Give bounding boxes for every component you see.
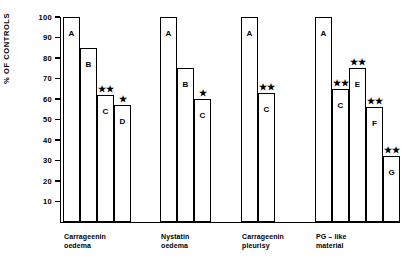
y-tick-label: 30: [20, 156, 52, 165]
group-nystatin-oedema-label: Nystatin oedema: [161, 232, 189, 251]
y-tick-label: 80: [20, 54, 52, 63]
significance-marker: ★★: [332, 79, 349, 88]
bar-letter-label: C: [258, 105, 275, 114]
bar-letter-label: D: [114, 117, 131, 126]
significance-marker: ★: [114, 95, 131, 104]
significance-marker: ★★: [366, 97, 383, 106]
bar-letter-label: B: [80, 60, 97, 69]
bar-letter-label: A: [160, 29, 177, 38]
group-carrageenin-oedema-label: Carrageenin oedema: [64, 232, 106, 251]
bar-letter-label: C: [332, 101, 349, 110]
bar-b-1: [80, 48, 97, 222]
significance-marker: ★★: [258, 83, 275, 92]
y-tick-mark: [55, 37, 60, 38]
group-pg-like-material-label: PG – like material: [316, 232, 346, 251]
y-tick-mark: [55, 201, 60, 202]
bar-b-2: [177, 68, 194, 222]
y-tick-mark: [55, 98, 60, 99]
y-tick-mark: [55, 119, 60, 120]
y-tick-mark: [55, 139, 60, 140]
bar-g-4: [383, 156, 400, 222]
bar-letter-label: B: [177, 80, 194, 89]
bar-letter-label: C: [194, 111, 211, 120]
y-axis-line: [60, 17, 61, 222]
y-tick-label: 60: [20, 95, 52, 104]
bar-chart: % OF CONTROLS 102030405060708090100 ABC★…: [0, 0, 408, 264]
bar-letter-label: A: [241, 29, 258, 38]
significance-marker: ★: [194, 89, 211, 98]
y-tick-label: 50: [20, 115, 52, 124]
significance-marker: ★★: [97, 85, 114, 94]
y-tick-mark: [55, 180, 60, 181]
y-tick-mark: [55, 16, 60, 17]
bar-letter-label: G: [383, 168, 400, 177]
y-tick-label: 10: [20, 197, 52, 206]
bar-letter-label: E: [349, 80, 366, 89]
significance-marker: ★★: [349, 58, 366, 67]
bar-a-1: [63, 17, 80, 222]
y-tick-mark: [55, 57, 60, 58]
bar-letter-label: A: [315, 29, 332, 38]
group-carrageenin-pleurisy-label: Carrageenin pleurisy: [242, 232, 284, 251]
bar-a-2: [160, 17, 177, 222]
significance-marker: ★★: [383, 146, 400, 155]
bar-letter-label: C: [97, 107, 114, 116]
bar-a-3: [241, 17, 258, 222]
y-tick-mark: [55, 78, 60, 79]
bar-letter-label: F: [366, 119, 383, 128]
y-tick-label: 70: [20, 74, 52, 83]
y-axis-title: % OF CONTROLS: [2, 0, 11, 84]
y-tick-label: 90: [20, 33, 52, 42]
bar-a-4: [315, 17, 332, 222]
y-tick-mark: [55, 160, 60, 161]
y-tick-label: 100: [20, 13, 52, 22]
bar-e-4: [349, 68, 366, 222]
y-tick-label: 20: [20, 177, 52, 186]
y-tick-label: 40: [20, 136, 52, 145]
bar-letter-label: A: [63, 29, 80, 38]
